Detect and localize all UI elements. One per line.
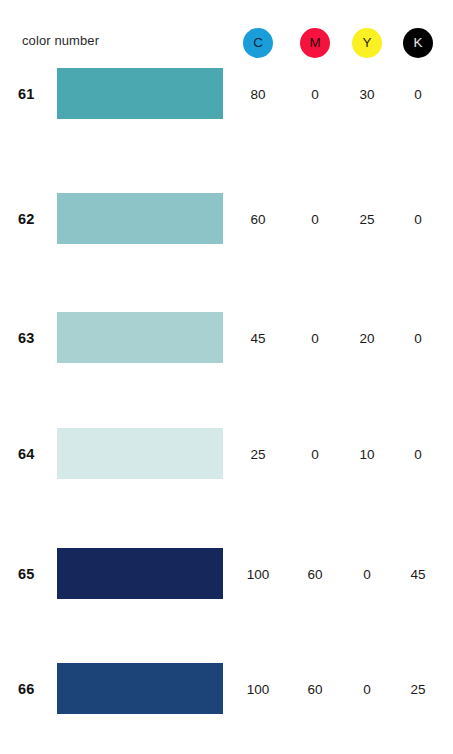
row-number-label: 66 [18,681,35,697]
color-swatch [57,193,223,244]
color-swatch [57,312,223,363]
value-k: 0 [395,212,441,227]
color-swatch [57,428,223,479]
table-row: 62 60 0 25 0 [0,193,453,245]
black-ink-dot-icon: K [403,28,433,58]
yellow-ink-dot-icon: Y [352,28,382,58]
value-k: 0 [395,447,441,462]
value-m: 0 [292,87,338,102]
yellow-ink-letter: Y [362,36,371,50]
table-row: 64 25 0 10 0 [0,428,453,480]
value-c: 45 [235,331,281,346]
value-k: 0 [395,331,441,346]
value-y: 30 [344,87,390,102]
black-ink-letter: K [413,36,422,50]
value-k: 0 [395,87,441,102]
value-k: 25 [395,682,441,697]
row-number-label: 65 [18,566,35,582]
row-number-label: 61 [18,86,35,102]
cyan-ink-dot-icon: C [243,28,273,58]
value-m: 0 [292,447,338,462]
magenta-ink-letter: M [309,36,320,50]
table-row: 66 100 60 0 25 [0,663,453,715]
value-c: 60 [235,212,281,227]
magenta-ink-dot-icon: M [300,28,330,58]
value-y: 20 [344,331,390,346]
cyan-ink-letter: C [253,36,263,50]
value-m: 60 [292,567,338,582]
value-k: 45 [395,567,441,582]
value-c: 100 [235,682,281,697]
value-m: 0 [292,212,338,227]
value-c: 25 [235,447,281,462]
value-y: 10 [344,447,390,462]
table-row: 61 80 0 30 0 [0,68,453,120]
value-c: 80 [235,87,281,102]
row-number-label: 64 [18,446,35,462]
value-m: 0 [292,331,338,346]
table-header: color number C M Y K [0,0,453,68]
row-number-label: 63 [18,330,35,346]
value-m: 60 [292,682,338,697]
value-y: 0 [344,567,390,582]
color-number-header-label: color number [22,33,99,48]
table-row: 65 100 60 0 45 [0,548,453,600]
value-y: 0 [344,682,390,697]
value-y: 25 [344,212,390,227]
row-number-label: 62 [18,211,35,227]
color-swatch [57,68,223,119]
color-swatch [57,548,223,599]
value-c: 100 [235,567,281,582]
table-row: 63 45 0 20 0 [0,312,453,364]
color-swatch [57,663,223,714]
